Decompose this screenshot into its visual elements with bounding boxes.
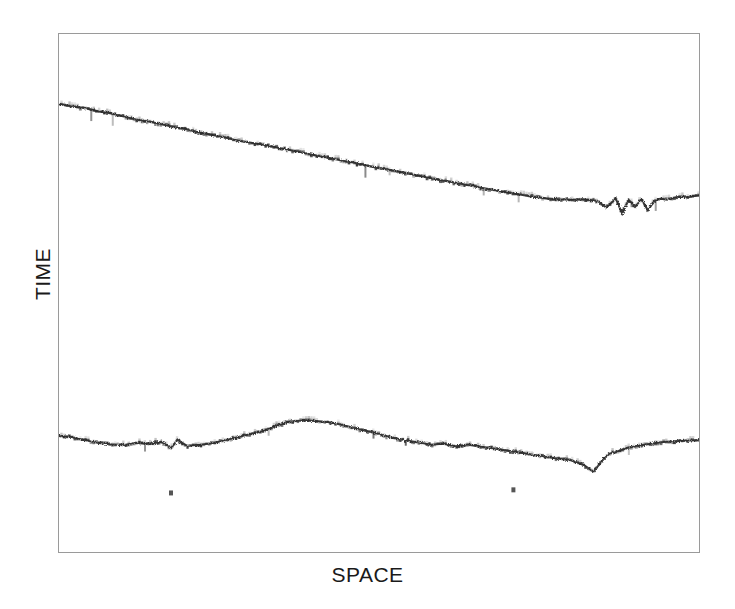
trace-halo bbox=[310, 153, 312, 155]
trace-sample bbox=[396, 170, 398, 172]
trace-sample bbox=[92, 442, 95, 444]
trace-sample bbox=[654, 199, 657, 201]
trace-halo bbox=[289, 146, 291, 148]
trace-halo bbox=[219, 132, 221, 134]
trace-sample bbox=[340, 424, 343, 426]
trace-sample bbox=[332, 159, 335, 161]
noise-spike bbox=[405, 442, 407, 445]
trace-sample bbox=[471, 184, 474, 187]
trace-sample bbox=[348, 426, 351, 429]
trace-sample bbox=[117, 114, 120, 117]
trace-sample bbox=[100, 110, 102, 113]
trace-sample bbox=[410, 441, 412, 443]
trace-halo bbox=[638, 197, 640, 199]
trace-halo bbox=[679, 193, 681, 195]
trace-halo bbox=[377, 163, 379, 165]
trace-halo bbox=[227, 134, 229, 136]
trace-halo bbox=[248, 432, 250, 434]
trace-sample bbox=[630, 447, 633, 449]
trace-sample bbox=[641, 199, 644, 202]
trace-halo bbox=[197, 442, 199, 444]
trace-halo bbox=[576, 458, 578, 460]
trace-halo bbox=[222, 437, 224, 439]
trace-sample bbox=[396, 439, 399, 441]
trace-sample bbox=[246, 141, 248, 143]
trace-halo bbox=[445, 440, 447, 442]
trace-sample bbox=[697, 439, 699, 441]
trace-halo bbox=[665, 195, 667, 197]
trace-sample bbox=[447, 180, 450, 182]
trace-sample bbox=[595, 201, 597, 203]
trace-halo bbox=[609, 201, 611, 203]
trace-sample bbox=[353, 426, 356, 428]
trace-halo bbox=[84, 436, 86, 438]
trace-sample bbox=[380, 434, 383, 437]
trace-sample bbox=[673, 441, 676, 444]
trace-sample bbox=[487, 189, 490, 192]
trace-sample bbox=[149, 442, 151, 445]
trace-halo bbox=[493, 446, 495, 448]
trace-sample bbox=[197, 444, 200, 447]
trace-sample bbox=[426, 178, 429, 181]
trace-halo bbox=[560, 197, 562, 199]
trace-halo bbox=[654, 440, 656, 442]
trace-sample bbox=[138, 119, 140, 122]
trace-upper-event bbox=[59, 104, 699, 214]
trace-sample bbox=[436, 442, 439, 444]
trace-sample bbox=[552, 457, 555, 459]
trace-sample bbox=[213, 442, 216, 445]
trace-sample bbox=[192, 129, 194, 132]
trace-sample bbox=[458, 184, 460, 186]
trace-halo bbox=[627, 198, 629, 200]
trace-halo bbox=[636, 202, 638, 204]
trace-halo bbox=[302, 416, 304, 418]
trace-halo bbox=[466, 181, 468, 183]
trace-sample bbox=[660, 198, 663, 200]
trace-sample bbox=[622, 209, 625, 211]
trace-sample bbox=[375, 433, 377, 436]
trace-sample bbox=[660, 442, 663, 445]
trace-sample bbox=[401, 438, 404, 440]
trace-sample bbox=[71, 435, 74, 438]
trace-halo bbox=[200, 442, 202, 444]
trace-sample bbox=[678, 439, 681, 441]
trace-halo bbox=[205, 132, 207, 134]
trace-halo bbox=[332, 157, 334, 159]
trace-sample bbox=[514, 450, 517, 452]
noise-spike bbox=[90, 110, 92, 121]
trace-sample bbox=[63, 103, 66, 105]
trace-sample bbox=[108, 443, 111, 446]
trace-sample bbox=[184, 127, 187, 129]
trace-sample bbox=[283, 422, 285, 424]
trace-halo bbox=[302, 148, 304, 150]
trace-sample bbox=[240, 436, 242, 439]
trace-sample bbox=[557, 457, 560, 459]
trace-halo bbox=[525, 192, 527, 194]
trace-halo bbox=[273, 423, 275, 425]
trace-halo bbox=[136, 117, 138, 119]
trace-sample bbox=[530, 194, 533, 197]
trace-sample bbox=[536, 195, 538, 197]
trace-sample bbox=[65, 104, 68, 106]
trace-sample bbox=[463, 184, 465, 187]
trace-sample bbox=[135, 442, 137, 445]
trace-sample bbox=[111, 445, 114, 447]
trace-sample bbox=[555, 459, 558, 461]
trace-sample bbox=[324, 156, 327, 159]
trace-sample bbox=[678, 195, 681, 198]
trace-halo bbox=[482, 444, 484, 446]
trace-halo bbox=[149, 440, 151, 442]
trace-halo bbox=[434, 442, 436, 444]
trace-sample bbox=[361, 428, 364, 431]
trace-sample bbox=[329, 422, 332, 425]
trace-sample bbox=[670, 198, 673, 201]
trace-sample bbox=[646, 210, 648, 213]
trace-sample bbox=[657, 198, 660, 200]
trace-sample bbox=[493, 448, 495, 450]
trace-halo bbox=[203, 442, 205, 444]
noise-spike bbox=[144, 445, 146, 452]
trace-halo bbox=[257, 141, 259, 143]
trace-sample bbox=[641, 445, 643, 447]
trace-sample bbox=[681, 440, 684, 442]
trace-sample bbox=[673, 197, 676, 200]
